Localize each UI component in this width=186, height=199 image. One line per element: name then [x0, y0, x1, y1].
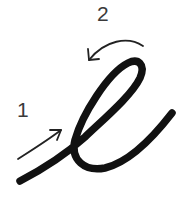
letter-stroke: [20, 61, 172, 181]
arrow-1-icon: [18, 130, 61, 159]
letter-diagram: [0, 0, 186, 199]
arrow-2-icon: [88, 41, 143, 60]
